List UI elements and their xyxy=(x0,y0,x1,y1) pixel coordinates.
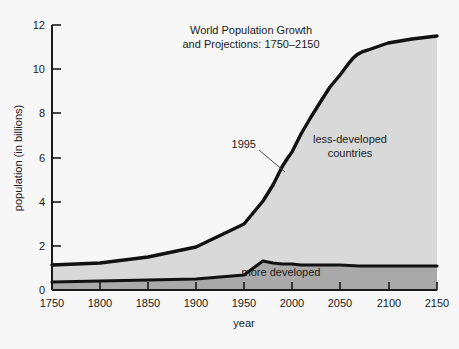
chart-title-line-1: World Population Growth xyxy=(190,24,312,36)
chart-title-line-2: and Projections: 1750–2150 xyxy=(183,38,320,50)
y-tick-label-10: 10 xyxy=(33,63,45,75)
y-tick-label-6: 6 xyxy=(39,152,45,164)
series-label-less-developed-line-2: countries xyxy=(328,147,373,159)
x-tick-labels: 1750 1800 1850 1900 1950 2000 2050 2100 … xyxy=(40,297,449,309)
x-tick-label-1800: 1800 xyxy=(88,297,112,309)
x-axis-title: year xyxy=(233,317,255,329)
x-tick-label-2150: 2150 xyxy=(425,297,449,309)
series-label-more-developed: more developed xyxy=(242,266,321,278)
x-tick-label-1950: 1950 xyxy=(232,297,256,309)
y-tick-label-12: 12 xyxy=(33,19,45,31)
x-tick-label-2000: 2000 xyxy=(280,297,304,309)
annotation-label-1995: 1995 xyxy=(232,138,256,150)
x-tick-label-1900: 1900 xyxy=(184,297,208,309)
y-tick-label-8: 8 xyxy=(39,107,45,119)
y-tick-label-0: 0 xyxy=(39,284,45,296)
series-label-less-developed-line-1: less-developed xyxy=(313,133,387,145)
chart-figure: 12 10 8 6 4 2 0 1750 1800 1850 1900 1950… xyxy=(0,0,459,349)
x-tick-label-1750: 1750 xyxy=(40,297,64,309)
x-tick-label-2050: 2050 xyxy=(328,297,352,309)
y-axis-title: population (in billions) xyxy=(12,105,24,211)
x-tick-label-1850: 1850 xyxy=(136,297,160,309)
population-area-chart: 12 10 8 6 4 2 0 1750 1800 1850 1900 1950… xyxy=(0,0,459,349)
x-tick-label-2100: 2100 xyxy=(377,297,401,309)
y-tick-label-2: 2 xyxy=(39,240,45,252)
y-tick-label-4: 4 xyxy=(39,196,45,208)
